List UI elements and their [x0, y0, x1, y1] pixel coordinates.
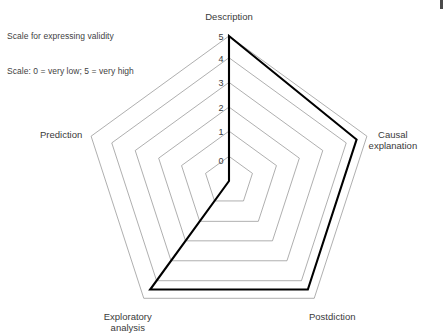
tick-label-4: 4 [218, 54, 223, 64]
tick-label-5: 5 [218, 32, 223, 42]
axis-label-causal-explanation: explanation [369, 140, 418, 151]
axis-label-description: Description [205, 11, 253, 22]
tick-label-3: 3 [218, 78, 223, 88]
axis-label-exploratory-analysis: Exploratory [104, 311, 152, 322]
validity-polygon [150, 36, 356, 290]
tick-label-1: 1 [218, 127, 223, 137]
caption-line-2: Scale: 0 = very low; 5 = very high [7, 66, 134, 78]
caption-line-1: Scale for expressing validity [7, 31, 134, 43]
axis-label-prediction: Prediction [40, 129, 82, 140]
radar-chart-figure: Scale for expressing validity Scale: 0 =… [0, 0, 443, 335]
axis-label-causal-explanation: Causal [378, 129, 408, 140]
radial-tick-labels: 012345 [218, 32, 223, 166]
tick-label-2: 2 [218, 103, 223, 113]
axis-label-postdiction: Postdiction [309, 311, 355, 322]
data-polygon [150, 36, 356, 290]
axis-label-exploratory-analysis: analysis [111, 322, 146, 333]
tick-label-0: 0 [218, 156, 223, 166]
chart-caption: Scale for expressing validity Scale: 0 =… [7, 8, 134, 100]
